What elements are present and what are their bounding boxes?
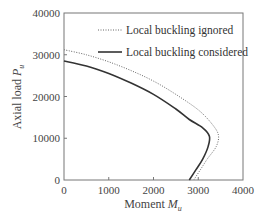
x-tick-label: 2000: [143, 184, 166, 196]
x-tick-label: 3000: [187, 184, 210, 196]
y-axis-ticks: 010000200003000040000: [33, 7, 68, 186]
x-axis-title: Moment Mu: [124, 197, 182, 213]
y-tick-label: 0: [55, 174, 61, 186]
y-tick-label: 30000: [33, 49, 61, 61]
x-tick-label: 1000: [98, 184, 121, 196]
legend: Local buckling ignored Local buckling co…: [98, 24, 248, 59]
y-tick-label: 20000: [33, 91, 61, 103]
y-axis-title: Axial load Pu: [10, 65, 26, 130]
x-tick-label: 4000: [232, 184, 255, 196]
series-group: [64, 50, 219, 180]
series-line-considered: [64, 61, 210, 180]
y-tick-label: 10000: [33, 132, 61, 144]
legend-label-ignored: Local buckling ignored: [126, 24, 234, 37]
x-tick-label: 0: [61, 184, 67, 196]
interaction-chart: 01000200030004000 010000200003000040000 …: [0, 0, 265, 221]
y-tick-label: 40000: [33, 7, 61, 19]
plot-frame: [64, 13, 243, 180]
legend-label-considered: Local buckling considered: [126, 46, 248, 59]
series-line-ignored: [64, 50, 219, 180]
